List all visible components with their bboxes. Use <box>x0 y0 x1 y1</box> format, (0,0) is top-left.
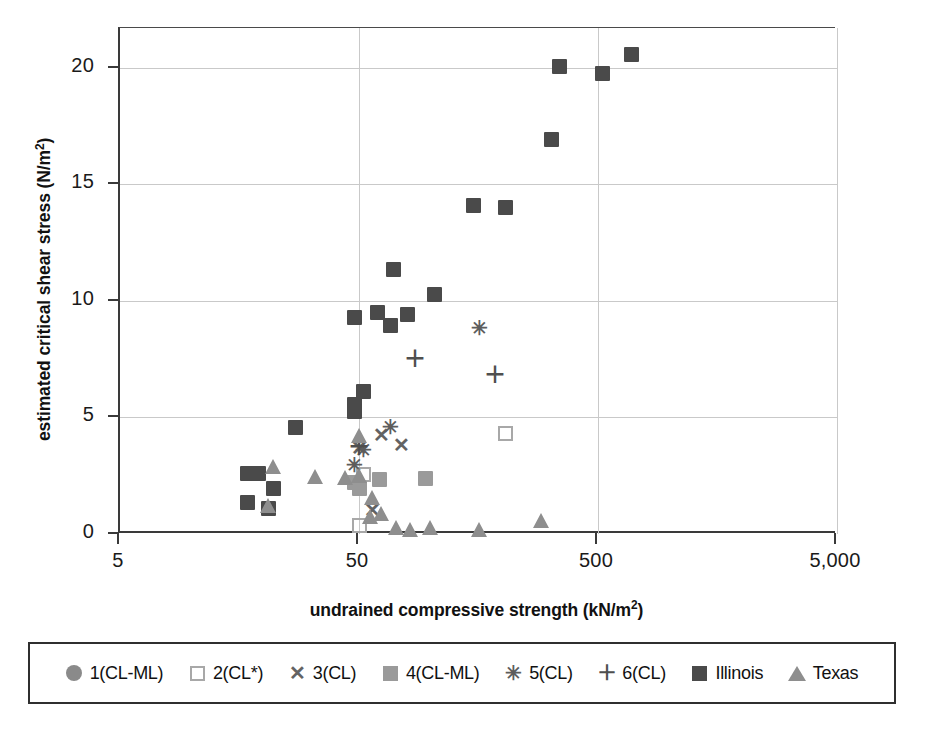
gridline-horizontal <box>120 184 837 185</box>
marker-filled-square <box>347 310 362 325</box>
legend-item-label: 3(CL) <box>313 663 357 684</box>
x-tick-mark <box>356 533 358 544</box>
gridline-horizontal <box>120 301 837 302</box>
marker-asterisk: ✳ <box>380 416 402 438</box>
marker-plus: ＋ <box>404 348 426 370</box>
legend-swatch-square <box>691 665 708 682</box>
marker-triangle <box>533 513 549 528</box>
legend-item-label: 6(CL) <box>622 663 666 684</box>
asterisk-icon: ✳ <box>505 663 522 683</box>
legend-item-6-cl[interactable]: ＋6(CL) <box>598 663 666 684</box>
marker-open-square <box>356 467 371 482</box>
y-tick-label: 15 <box>58 170 94 193</box>
marker-asterisk: ✳ <box>352 439 374 461</box>
x-axis-title: undrained compressive strength (kN/m2) <box>118 598 835 621</box>
marker-triangle <box>402 522 418 537</box>
x-tick-mark <box>834 533 836 544</box>
marker-filled-square <box>552 59 567 74</box>
marker-filled-square <box>383 318 398 333</box>
legend-swatch-plus: ＋ <box>598 665 615 682</box>
filled-square-icon <box>383 666 398 681</box>
marker-filled-square <box>466 198 481 213</box>
marker-triangle <box>265 459 281 474</box>
legend-item-label: 2(CL*) <box>213 663 263 684</box>
gridline-vertical <box>359 28 360 534</box>
marker-filled-square <box>240 495 255 510</box>
y-tick-label: 10 <box>58 287 94 310</box>
marker-triangle <box>422 520 438 535</box>
marker-triangle <box>337 470 353 485</box>
marker-open-square <box>498 426 513 441</box>
marker-asterisk: ✳ <box>469 317 491 339</box>
marker-filled-square <box>544 132 559 147</box>
marker-filled-square <box>347 475 362 490</box>
filled-square-icon <box>692 666 707 681</box>
legend-swatch-square <box>382 665 399 682</box>
y-tick-label: 20 <box>58 54 94 77</box>
marker-filled-square <box>400 307 415 322</box>
marker-triangle <box>364 490 380 505</box>
x-icon: ✕ <box>289 663 306 683</box>
marker-filled-square <box>418 471 433 486</box>
marker-filled-square <box>498 200 513 215</box>
marker-filled-square <box>372 472 387 487</box>
circle-icon <box>66 665 82 681</box>
legend-swatch-asterisk: ✳ <box>505 665 522 682</box>
legend-item-3-cl[interactable]: ✕3(CL) <box>289 663 357 684</box>
legend-item-texas[interactable]: Texas <box>789 663 859 684</box>
marker-filled-square <box>240 466 255 481</box>
marker-asterisk: ✳ <box>344 454 366 476</box>
marker-plus: ＋ <box>484 364 506 386</box>
marker-triangle <box>471 522 487 537</box>
legend: 1(CL-ML)2(CL*)✕3(CL)4(CL-ML)✳5(CL)＋6(CL)… <box>28 642 896 704</box>
marker-filled-square <box>251 466 266 481</box>
marker-filled-square <box>356 384 371 399</box>
marker-x: ✕ <box>362 499 384 521</box>
x-tick-label: 5 <box>63 549 173 572</box>
y-tick-mark <box>108 66 118 68</box>
y-axis-title: estimated critical shear stress (N/m2) <box>33 79 56 499</box>
gridline-horizontal <box>120 417 837 418</box>
marker-filled-square <box>261 501 276 516</box>
marker-filled-square <box>266 481 281 496</box>
legend-item-1-cl-ml[interactable]: 1(CL-ML) <box>66 663 164 684</box>
legend-item-4-cl-ml[interactable]: 4(CL-ML) <box>382 663 480 684</box>
legend-item-5-cl[interactable]: ✳5(CL) <box>505 663 573 684</box>
legend-swatch-x: ✕ <box>289 665 306 682</box>
legend-item-2-cl[interactable]: 2(CL*) <box>189 663 263 684</box>
legend-item-label: Illinois <box>715 663 763 684</box>
legend-item-illinois[interactable]: Illinois <box>691 663 763 684</box>
legend-item-label: Texas <box>813 663 859 684</box>
marker-triangle <box>373 506 389 521</box>
y-tick-label: 5 <box>58 403 94 426</box>
y-tick-label: 0 <box>58 520 94 543</box>
marker-filled-square <box>370 305 385 320</box>
marker-filled-square <box>288 420 303 435</box>
legend-item-label: 5(CL) <box>529 663 573 684</box>
legend-swatch-circle <box>66 665 83 682</box>
legend-swatch-triangle <box>789 665 806 682</box>
gridline-vertical <box>837 28 838 534</box>
x-tick-label: 5,000 <box>780 549 890 572</box>
legend-swatch-open-square <box>189 665 206 682</box>
marker-triangle <box>362 509 378 524</box>
marker-filled-square <box>624 47 639 62</box>
marker-filled-square <box>386 262 401 277</box>
x-tick-label: 50 <box>302 549 412 572</box>
y-tick-mark <box>108 182 118 184</box>
gridline-vertical <box>598 28 599 534</box>
open-square-icon <box>190 666 205 681</box>
marker-triangle <box>260 498 276 513</box>
marker-x: ✕ <box>390 434 412 456</box>
marker-triangle <box>307 469 323 484</box>
y-tick-mark <box>108 299 118 301</box>
legend-item-label: 4(CL-ML) <box>406 663 480 684</box>
x-tick-label: 500 <box>541 549 651 572</box>
y-tick-mark <box>108 415 118 417</box>
marker-triangle <box>388 520 404 535</box>
marker-filled-square <box>347 397 362 412</box>
x-tick-mark <box>595 533 597 544</box>
gridline-horizontal <box>120 68 837 69</box>
x-tick-mark <box>117 533 119 544</box>
scatter-plot-figure: 05101520 ✕✕✕✕✳✳✳✳＋＋＋ 5505005,000 undrain… <box>0 0 926 730</box>
